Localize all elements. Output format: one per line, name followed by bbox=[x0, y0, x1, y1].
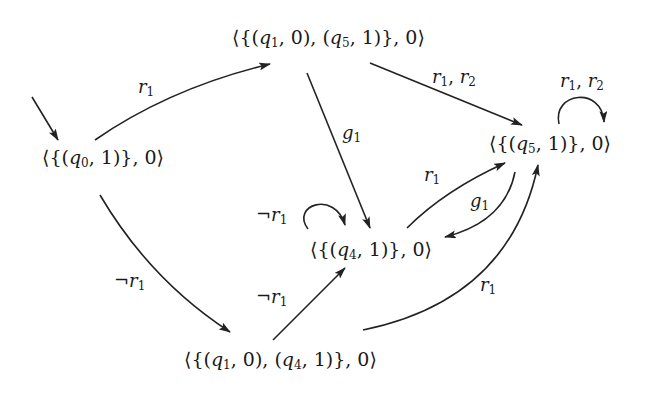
node-E-rest: , 1)}, 0⟩ bbox=[302, 348, 377, 370]
edge-label-B-D-sub: 1 bbox=[354, 131, 362, 145]
edge-label-A-E-neg: ¬ bbox=[114, 270, 129, 291]
edge-label-D-D-base: r bbox=[271, 204, 280, 225]
edge-label-C-D-sub: 1 bbox=[482, 199, 490, 213]
edge-label-D-C: r1 bbox=[424, 166, 440, 186]
edge-label-A-E: ¬r1 bbox=[114, 272, 145, 292]
edge-A-to-E bbox=[100, 195, 230, 332]
node-B: ⟨{(q1, 0), (q5, 1)}, 0⟩ bbox=[232, 28, 425, 49]
edge-label-B-C-base1: r bbox=[432, 66, 441, 87]
node-B-var2: q bbox=[330, 26, 342, 48]
node-B-var1: q bbox=[259, 26, 271, 48]
node-C-var: q bbox=[516, 132, 528, 154]
initial-state-arrow bbox=[32, 97, 58, 140]
node-E: ⟨{(q1, 0), (q4, 1)}, 0⟩ bbox=[184, 350, 377, 371]
edge-label-B-D: g1 bbox=[342, 124, 361, 144]
state-graph-canvas bbox=[0, 0, 645, 395]
edge-C-self-loop bbox=[558, 97, 604, 124]
node-A-open: ⟨{( bbox=[42, 146, 69, 168]
node-B-sub1: 1 bbox=[271, 36, 279, 50]
edge-label-E-D-sub: 1 bbox=[280, 295, 288, 309]
edge-label-C-C: r1, r2 bbox=[560, 72, 604, 92]
edge-label-B-C-sep: , bbox=[448, 66, 459, 87]
edge-label-A-E-sub: 1 bbox=[138, 279, 146, 293]
edge-label-B-D-base: g bbox=[342, 122, 354, 143]
node-E-mid: , 0), ( bbox=[231, 348, 282, 370]
edge-label-C-C-base1: r bbox=[560, 70, 569, 91]
node-E-sub1: 1 bbox=[223, 358, 231, 372]
edge-A-to-B bbox=[95, 64, 270, 140]
edge-D-self-loop bbox=[304, 204, 345, 229]
node-D-rest: , 1)}, 0⟩ bbox=[357, 238, 432, 260]
node-C-rest: , 1)}, 0⟩ bbox=[536, 132, 611, 154]
edge-label-D-C-base: r bbox=[424, 164, 433, 185]
node-B-open: ⟨{( bbox=[232, 26, 259, 48]
edge-label-D-D-sub: 1 bbox=[280, 213, 288, 227]
edge-label-E-C: r1 bbox=[480, 276, 496, 296]
node-E-sub2: 4 bbox=[294, 358, 302, 372]
edge-label-E-C-base: r bbox=[480, 274, 489, 295]
node-B-sub2: 5 bbox=[342, 36, 350, 50]
edge-label-B-C-sub2: 2 bbox=[468, 75, 476, 89]
node-C-sub: 5 bbox=[528, 142, 536, 156]
edge-label-A-B-base: r bbox=[138, 76, 147, 97]
edge-label-D-C-sub: 1 bbox=[433, 173, 441, 187]
node-A-sub: 0 bbox=[81, 156, 89, 170]
edge-label-C-C-sep: , bbox=[576, 70, 587, 91]
node-A: ⟨{(q0, 1)}, 0⟩ bbox=[42, 148, 164, 169]
node-D-var: q bbox=[337, 238, 349, 260]
edge-label-E-D-base: r bbox=[271, 286, 280, 307]
edge-label-D-D: ¬r1 bbox=[256, 206, 287, 226]
node-C-open: ⟨{( bbox=[489, 132, 516, 154]
edge-label-A-E-base: r bbox=[129, 270, 138, 291]
edge-label-B-C: r1, r2 bbox=[432, 68, 476, 88]
node-B-mid: , 0), ( bbox=[279, 26, 330, 48]
edge-label-C-D: g1 bbox=[470, 192, 489, 212]
node-B-rest: , 1)}, 0⟩ bbox=[350, 26, 425, 48]
node-E-var2: q bbox=[282, 348, 294, 370]
node-A-var: q bbox=[69, 146, 81, 168]
edge-label-E-C-sub: 1 bbox=[489, 283, 497, 297]
node-E-var1: q bbox=[211, 348, 223, 370]
node-D-open: ⟨{( bbox=[310, 238, 337, 260]
edge-label-A-B-sub: 1 bbox=[147, 85, 155, 99]
edge-label-D-D-neg: ¬ bbox=[256, 204, 271, 225]
node-D-sub: 4 bbox=[349, 248, 357, 262]
node-E-open: ⟨{( bbox=[184, 348, 211, 370]
node-D: ⟨{(q4, 1)}, 0⟩ bbox=[310, 240, 432, 261]
edge-label-C-D-base: g bbox=[470, 190, 482, 211]
edge-D-to-C bbox=[407, 163, 505, 228]
node-A-rest: , 1)}, 0⟩ bbox=[89, 146, 164, 168]
edge-label-E-D-neg: ¬ bbox=[256, 286, 271, 307]
edge-label-C-C-sub2: 2 bbox=[596, 79, 604, 93]
node-C: ⟨{(q5, 1)}, 0⟩ bbox=[489, 134, 611, 155]
edge-label-E-D: ¬r1 bbox=[256, 288, 287, 308]
edge-label-A-B: r1 bbox=[138, 78, 154, 98]
